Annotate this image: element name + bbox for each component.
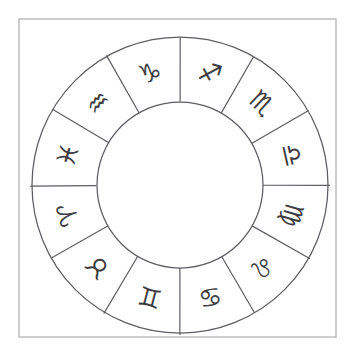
wheel-inner-circle — [97, 102, 263, 268]
wheel-divider-line — [31, 186, 96, 187]
zodiac-wheel-canvas: ♐♏♎♍♌♋♊♉♈♓♒♑ — [0, 0, 359, 360]
zodiac-wheel-svg: ♐♏♎♍♌♋♊♉♈♓♒♑ — [0, 0, 359, 360]
